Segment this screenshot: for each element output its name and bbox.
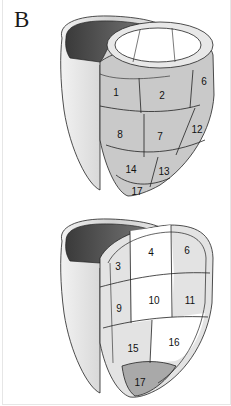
segment-label: 13: [158, 166, 170, 177]
segment-label: 1: [113, 87, 119, 98]
segment-label: 11: [185, 295, 196, 306]
segment-label: 2: [159, 90, 165, 101]
lv-cavity-opening: [115, 28, 201, 62]
segment-label: 17: [131, 186, 143, 197]
bottom-heart-diagram: 3 4 6 9 10 11 15 16 17: [0, 203, 231, 406]
segment-label: 15: [127, 343, 139, 354]
segment-label: 3: [115, 261, 121, 272]
top-heart-diagram: 1 2 6 8 7 12 14 13 17: [0, 0, 231, 203]
segment-label: 4: [148, 247, 154, 258]
segment-label: 7: [157, 131, 163, 142]
segment-label: 6: [201, 76, 207, 87]
segment-label: 10: [148, 295, 160, 306]
segment-label: 12: [191, 124, 203, 135]
segment-label: 6: [184, 245, 190, 256]
segment-label: 9: [116, 303, 122, 314]
segment-label: 8: [117, 129, 123, 140]
segment-label: 17: [134, 377, 146, 388]
segment-label: 16: [168, 337, 180, 348]
segment-label: 14: [125, 164, 137, 175]
